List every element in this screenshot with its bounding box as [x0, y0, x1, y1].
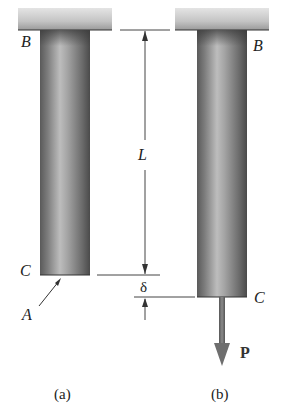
area-pointer [39, 281, 59, 306]
dimensions: L δ [97, 30, 195, 320]
arrowhead-up-delta [142, 298, 148, 307]
fixed-support-left [18, 8, 112, 30]
load-arrow-head [214, 343, 230, 366]
panel-a: B C A (a) [18, 8, 112, 403]
label-b-left: B [21, 33, 31, 50]
caption-b: (b) [211, 386, 229, 403]
caption-a: (a) [54, 386, 71, 403]
label-elongation: δ [140, 279, 147, 295]
arrowhead-down [142, 264, 148, 274]
axial-load-diagram: B C A (a) L δ B C P (b) [0, 0, 286, 413]
label-c-right: C [254, 289, 265, 306]
label-c-left: C [20, 262, 31, 279]
arrowhead-up [142, 31, 148, 41]
panel-b: B C P (b) [175, 8, 269, 403]
label-length: L [137, 146, 147, 163]
bar-loaded [197, 30, 247, 297]
bar-unloaded [40, 30, 90, 275]
load-arrow-shaft [219, 297, 225, 345]
label-a-area: A [21, 306, 32, 323]
fixed-support-right [175, 8, 269, 30]
label-load: P [240, 344, 250, 361]
label-b-right: B [253, 37, 263, 54]
